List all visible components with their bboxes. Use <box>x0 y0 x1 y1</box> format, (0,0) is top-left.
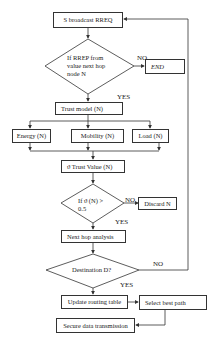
secure-tx-label: Secure data transmission <box>63 322 128 330</box>
rrep-decision-line3: node N <box>67 70 105 78</box>
update-routing-label: Update routing table <box>68 298 121 306</box>
mobility-label: Mobility (N) <box>81 132 114 140</box>
rrep-decision-text: If RREP from value next hop node N <box>67 54 105 78</box>
rrep-decision-line1: If RREP from <box>67 54 105 62</box>
threshold-decision-line1: If ϑ (N) > <box>78 197 103 205</box>
mobility-box: Mobility (N) <box>71 129 124 143</box>
trust-model-box: Trust model (N) <box>55 102 123 115</box>
secure-tx-box: Secure data transmission <box>56 318 135 333</box>
destination-no-label: NO <box>153 260 163 268</box>
load-label: Load (N) <box>138 132 162 140</box>
broadcast-rreq-label: S broadcast RREQ <box>63 16 112 24</box>
threshold-decision-line2: 0.5 <box>78 205 103 213</box>
trust-model-label: Trust model (N) <box>61 105 103 113</box>
destination-decision-text: Destination D? <box>72 266 111 274</box>
destination-yes-label: YES <box>120 281 133 289</box>
select-path-label: Select best path <box>145 299 186 307</box>
discard-box: Discard N <box>138 197 177 210</box>
end-box: END <box>145 59 185 74</box>
next-hop-box: Next hop analysis <box>61 230 126 243</box>
energy-label: Energy (N) <box>17 132 46 140</box>
broadcast-rreq-box: S broadcast RREQ <box>53 12 123 28</box>
trust-value-label: ϑ Trust Value (N) <box>67 163 112 171</box>
threshold-no-label: NO <box>125 196 135 204</box>
select-path-box: Select best path <box>139 295 207 310</box>
threshold-decision-text: If ϑ (N) > 0.5 <box>78 197 103 213</box>
energy-box: Energy (N) <box>12 129 51 143</box>
update-routing-box: Update routing table <box>61 295 128 309</box>
next-hop-label: Next hop analysis <box>67 233 114 241</box>
rrep-yes-label: YES <box>117 93 130 101</box>
rrep-decision-line2: value next hop <box>67 62 105 70</box>
end-label: END <box>151 63 164 71</box>
trust-value-box: ϑ Trust Value (N) <box>61 160 125 173</box>
discard-label: Discard N <box>144 200 171 208</box>
load-box: Load (N) <box>132 129 169 143</box>
threshold-yes-label: YES <box>115 218 128 226</box>
